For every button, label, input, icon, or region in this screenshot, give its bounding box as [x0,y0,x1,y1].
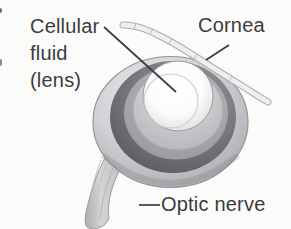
label-line: Cellular [30,13,99,40]
scan-edge-artifact [0,59,2,66]
label-cornea: Cornea [198,12,265,39]
label-line: (lens) [30,67,99,94]
label-optic-nerve: Optic nerve [161,191,265,218]
label-line: fluid [30,40,99,67]
leader-line-cornea [206,45,229,60]
eye-anatomy-diagram: Cellular fluid (lens) Cornea Optic nerve [0,0,291,229]
label-cellular-fluid-lens: Cellular fluid (lens) [30,13,99,94]
